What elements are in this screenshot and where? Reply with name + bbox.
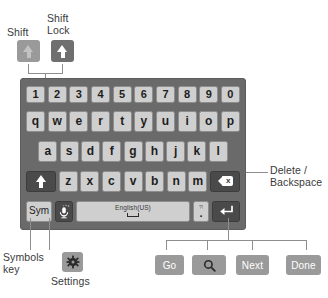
key-h[interactable]: h xyxy=(145,141,164,162)
key-i[interactable]: i xyxy=(178,111,197,132)
keyboard-row-home: a s d f g h j k l xyxy=(26,138,240,164)
key-4[interactable]: 4 xyxy=(91,86,110,103)
key-g[interactable]: g xyxy=(124,141,143,162)
arrow-up-icon xyxy=(23,45,34,58)
key-2[interactable]: 2 xyxy=(48,86,67,103)
keyboard-row-bottom: z x c v b n m x xyxy=(26,168,240,194)
key-3[interactable]: 3 xyxy=(69,86,88,103)
enter-variant-done[interactable]: Done xyxy=(286,255,321,275)
space-language-label: English(US) xyxy=(115,205,151,212)
key-n[interactable]: n xyxy=(167,171,186,192)
keyboard-delete-key[interactable]: x xyxy=(210,171,240,192)
callout-shift-lock-label: Shift Lock xyxy=(47,13,87,36)
key-v[interactable]: v xyxy=(124,171,143,192)
callout-delete-label: Delete / Backspace xyxy=(270,165,328,188)
period-label: . xyxy=(199,210,202,217)
key-6[interactable]: 6 xyxy=(134,86,153,103)
connector-enter-search xyxy=(207,240,208,250)
onscreen-keyboard[interactable]: 1 2 3 4 5 6 7 8 9 0 q w e r t y u i o p … xyxy=(20,78,246,230)
connector-sym xyxy=(30,218,31,250)
connector-delete xyxy=(246,172,268,173)
microphone-icon xyxy=(57,204,71,219)
keyboard-enter-key[interactable] xyxy=(212,201,240,222)
enter-variant-next-label: Next xyxy=(242,260,263,271)
key-d[interactable]: d xyxy=(81,141,100,162)
arrow-up-icon xyxy=(57,45,68,58)
callout-symbols-key-label: Symbols key xyxy=(3,252,61,275)
key-m[interactable]: m xyxy=(188,171,207,192)
connector-enter-done xyxy=(306,240,307,250)
enter-variant-next[interactable]: Next xyxy=(236,255,269,275)
connector-settings xyxy=(49,218,50,250)
enter-variant-go[interactable]: Go xyxy=(155,255,184,275)
key-l[interactable]: l xyxy=(209,141,228,162)
callout-shift-label: Shift xyxy=(7,27,47,39)
key-1[interactable]: 1 xyxy=(26,86,45,103)
key-s[interactable]: s xyxy=(60,141,79,162)
search-icon xyxy=(203,259,216,272)
key-y[interactable]: y xyxy=(134,111,153,132)
key-f[interactable]: f xyxy=(102,141,121,162)
key-q[interactable]: q xyxy=(26,111,45,132)
key-u[interactable]: u xyxy=(156,111,175,132)
key-9[interactable]: 9 xyxy=(199,86,218,103)
key-z[interactable]: z xyxy=(59,171,78,192)
keyboard-space-key[interactable]: English(US) xyxy=(76,201,190,222)
key-r[interactable]: r xyxy=(91,111,110,132)
key-a[interactable]: a xyxy=(38,141,57,162)
keyboard-row-numbers: 1 2 3 4 5 6 7 8 9 0 xyxy=(26,84,240,104)
keyboard-row-top: q w e r t y u i o p xyxy=(26,108,240,134)
key-0[interactable]: 0 xyxy=(221,86,240,103)
example-settings-key[interactable] xyxy=(62,252,83,272)
callout-settings-label: Settings xyxy=(51,276,111,288)
key-7[interactable]: 7 xyxy=(156,86,175,103)
key-o[interactable]: o xyxy=(199,111,218,132)
example-shift-lock-key[interactable] xyxy=(51,40,74,62)
connector-enter-bar xyxy=(166,240,306,241)
key-k[interactable]: k xyxy=(187,141,206,162)
connector-enter-next xyxy=(252,240,253,250)
key-b[interactable]: b xyxy=(145,171,164,192)
key-t[interactable]: t xyxy=(113,111,132,132)
key-e[interactable]: e xyxy=(69,111,88,132)
key-w[interactable]: w xyxy=(48,111,67,132)
connector-enter-go xyxy=(166,240,167,250)
key-p[interactable]: p xyxy=(221,111,240,132)
key-j[interactable]: j xyxy=(166,141,185,162)
enter-variant-go-label: Go xyxy=(163,260,177,271)
enter-variant-search[interactable] xyxy=(192,255,226,275)
keyboard-mic-key[interactable] xyxy=(55,201,73,222)
key-x[interactable]: x xyxy=(80,171,99,192)
keyboard-row-function: Sym English(US) ?! . xyxy=(26,198,240,224)
gear-icon xyxy=(66,255,80,269)
backspace-icon: x xyxy=(218,176,233,186)
key-8[interactable]: 8 xyxy=(178,86,197,103)
return-icon xyxy=(218,205,234,217)
keyboard-period-key[interactable]: ?! . xyxy=(193,201,209,222)
example-shift-key[interactable] xyxy=(17,40,40,62)
keyboard-shift-key[interactable] xyxy=(26,171,56,192)
key-5[interactable]: 5 xyxy=(113,86,132,103)
space-bracket-icon xyxy=(127,213,139,217)
arrow-up-icon xyxy=(36,175,47,188)
connector-enter-drop xyxy=(228,218,229,240)
enter-variant-done-label: Done xyxy=(291,260,316,271)
key-c[interactable]: c xyxy=(102,171,121,192)
